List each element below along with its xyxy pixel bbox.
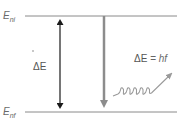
photon-wave-icon xyxy=(113,75,170,96)
initial-level-label: Eni xyxy=(3,10,16,23)
final-level-label: Enf xyxy=(3,106,17,119)
initial-level: Eni xyxy=(3,10,177,23)
energy-gap-label: ΔE xyxy=(33,61,47,72)
photon-emission: ΔE = hf xyxy=(113,53,170,96)
energy-level-diagram: Eni Enf ΔE ΔE = hf xyxy=(0,0,187,130)
photon-energy-label: ΔE = hf xyxy=(134,53,168,64)
energy-gap-arrow: ΔE xyxy=(32,22,60,106)
final-level: Enf xyxy=(3,106,177,119)
dot-mark xyxy=(32,50,33,51)
